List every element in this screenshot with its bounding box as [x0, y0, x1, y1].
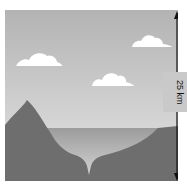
height-arrow — [5, 10, 178, 181]
diagram-scene — [5, 10, 178, 181]
scale-label: 25 km — [163, 72, 187, 112]
